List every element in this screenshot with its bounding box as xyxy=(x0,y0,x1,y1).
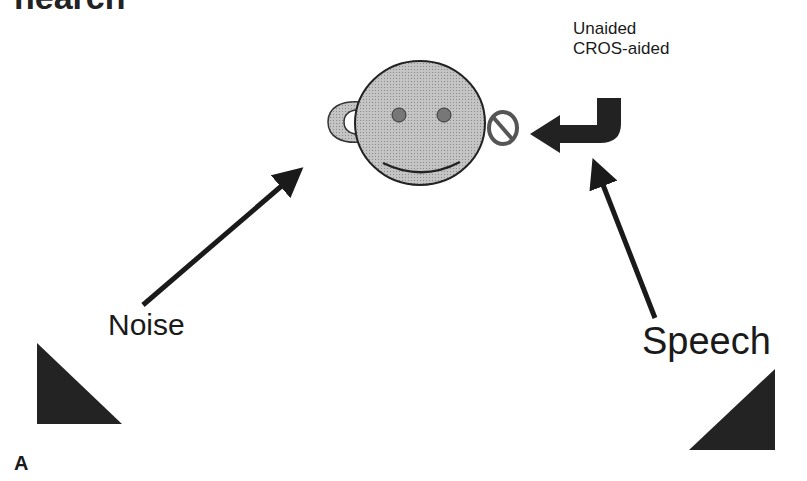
speech-speaker-icon xyxy=(689,369,775,450)
smiley-face-icon xyxy=(355,61,485,185)
curved-arrow-icon xyxy=(530,98,621,153)
noise-label: Noise xyxy=(108,308,185,342)
noise-speaker-icon xyxy=(37,343,122,424)
speech-label: Speech xyxy=(642,320,771,363)
legend-cros-aided: CROS-aided xyxy=(573,39,669,59)
diagram-canvas xyxy=(0,0,807,481)
noise-arrow xyxy=(143,177,292,305)
legend-unaided: Unaided xyxy=(573,18,636,39)
speech-arrow xyxy=(598,172,655,318)
panel-label: A xyxy=(14,452,28,475)
no-symbol-icon xyxy=(489,112,517,144)
